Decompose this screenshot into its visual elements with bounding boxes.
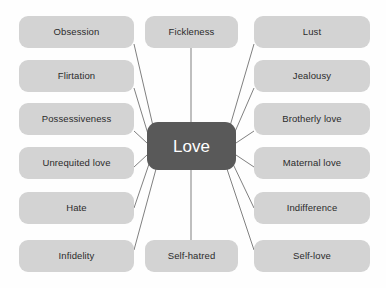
mind-map-diagram: Obsession Flirtation Possessiveness Unre… [0, 0, 386, 288]
connector-possessiveness [134, 131, 147, 143]
connector-maternal-love [236, 155, 254, 167]
node-indifference[interactable]: Indifference [254, 192, 370, 224]
node-lust[interactable]: Lust [254, 16, 370, 48]
node-fickleness[interactable]: Fickleness [145, 16, 238, 48]
connector-hate [134, 164, 149, 208]
node-maternal-love[interactable]: Maternal love [254, 147, 370, 179]
node-self-love[interactable]: Self-love [254, 240, 370, 272]
connector-jealousy [234, 88, 254, 134]
node-infidelity[interactable]: Infidelity [19, 240, 134, 272]
node-self-hatred[interactable]: Self-hatred [145, 240, 238, 272]
node-unrequited-love[interactable]: Unrequited love [19, 147, 134, 179]
connector-indifference [233, 164, 254, 208]
node-jealousy[interactable]: Jealousy [254, 60, 370, 92]
connector-unrequited [134, 155, 147, 167]
node-flirtation[interactable]: Flirtation [19, 60, 134, 92]
node-obsession[interactable]: Obsession [19, 16, 134, 48]
node-hate[interactable]: Hate [19, 192, 134, 224]
connector-brotherly-love [236, 131, 254, 143]
connector-obsession [134, 44, 153, 126]
node-brotherly-love[interactable]: Brotherly love [254, 103, 370, 135]
connector-infidelity [134, 169, 156, 250]
node-love-center[interactable]: Love [147, 122, 236, 170]
connector-flirtation [134, 88, 148, 134]
connector-lust [230, 44, 254, 126]
node-possessiveness[interactable]: Possessiveness [19, 103, 134, 135]
connector-self-love [227, 169, 254, 250]
